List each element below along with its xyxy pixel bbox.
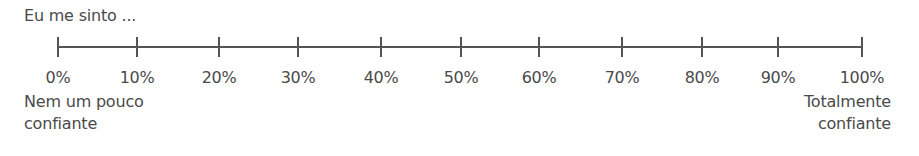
tick-label: 90%	[761, 68, 796, 87]
confidence-scale[interactable]: 0%10%20%30%40%50%60%70%80%90%100% Nem um…	[0, 0, 919, 156]
tick-label: 60%	[522, 68, 557, 87]
scale-tick[interactable]	[218, 37, 220, 57]
scale-tick[interactable]	[57, 37, 59, 57]
tick-label: 100%	[840, 68, 885, 87]
scale-tick[interactable]	[861, 37, 863, 57]
anchor-left-label: Nem um pouco confiante	[24, 91, 144, 135]
anchor-right-line1: Totalmente	[804, 91, 891, 113]
tick-label: 50%	[444, 68, 479, 87]
scale-tick[interactable]	[460, 37, 462, 57]
scale-tick[interactable]	[136, 37, 138, 57]
tick-label: 20%	[202, 68, 237, 87]
tick-label: 10%	[120, 68, 155, 87]
anchor-right-label: Totalmente confiante	[804, 91, 891, 135]
scale-tick[interactable]	[380, 37, 382, 57]
scale-tick[interactable]	[297, 37, 299, 57]
tick-label: 70%	[605, 68, 640, 87]
tick-label: 40%	[364, 68, 399, 87]
anchor-left-line2: confiante	[24, 113, 144, 135]
scale-tick[interactable]	[777, 37, 779, 57]
scale-tick[interactable]	[621, 37, 623, 57]
anchor-right-line2: confiante	[804, 113, 891, 135]
scale-tick[interactable]	[701, 37, 703, 57]
anchor-left-line1: Nem um pouco	[24, 91, 144, 113]
tick-label: 30%	[281, 68, 316, 87]
scale-tick[interactable]	[538, 37, 540, 57]
tick-label: 0%	[46, 68, 71, 87]
tick-label: 80%	[685, 68, 720, 87]
